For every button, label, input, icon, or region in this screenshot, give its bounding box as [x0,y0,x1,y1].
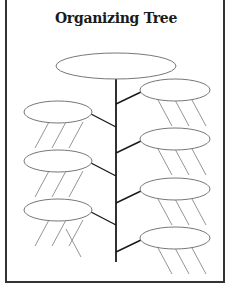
detail-line [192,149,206,175]
detail-line [158,149,172,175]
detail-line [69,122,83,148]
detail-line [158,248,172,274]
subtopic-ellipse-5 [140,178,210,200]
detail-line [35,171,49,197]
detail-line [158,199,172,225]
branch-line-3 [116,141,141,153]
main-idea-ellipse [56,53,176,79]
subtopic-ellipse-3 [140,128,210,150]
branch-line-1 [116,92,141,104]
detail-line [35,122,49,148]
subtopic-ellipse-7 [140,227,210,249]
branch-line-2 [91,114,116,127]
detail-line [175,199,189,225]
detail-line [69,171,83,197]
detail-line [192,199,206,225]
branch-line-5 [116,191,141,203]
subtopic-ellipse-4 [24,150,92,172]
branch-line-4 [91,163,116,176]
branch-line-7 [116,240,141,252]
detail-line [158,100,172,126]
tree-diagram [0,0,232,293]
subtopic-ellipse-6 [24,199,92,221]
organizing-tree-worksheet: Organizing Tree [0,0,232,293]
detail-line [192,100,206,126]
detail-line [69,220,83,246]
detail-line [52,171,66,197]
detail-line [192,248,206,274]
subtopic-ellipse-2 [24,101,92,123]
detail-line [52,122,66,148]
detail-line [175,100,189,126]
detail-line [175,149,189,175]
detail-line-extra [66,229,81,257]
detail-line [52,220,66,246]
detail-line [35,220,49,246]
detail-line [175,248,189,274]
subtopic-ellipse-1 [140,79,210,101]
branch-line-6 [91,212,116,225]
